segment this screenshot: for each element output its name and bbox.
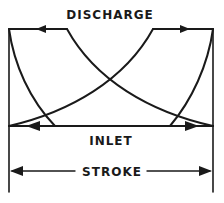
discharge-right-arrow-icon [180,25,190,33]
inlet-label: INLET [89,134,133,148]
expansion-curve-right [170,29,213,126]
inlet-left-arrow-icon [26,121,40,131]
discharge-label: DISCHARGE [66,8,154,22]
stroke-right-arrow-icon [199,166,212,176]
indicator-diagram: DISCHARGE INLET STROKE [0,0,224,203]
stroke-label: STROKE [82,165,142,179]
expansion-curve-left [9,29,55,126]
compression-curve-1 [67,29,213,126]
compression-curve-2 [9,29,153,126]
stroke-left-arrow-icon [10,166,23,176]
discharge-left-arrow-icon [36,25,46,33]
